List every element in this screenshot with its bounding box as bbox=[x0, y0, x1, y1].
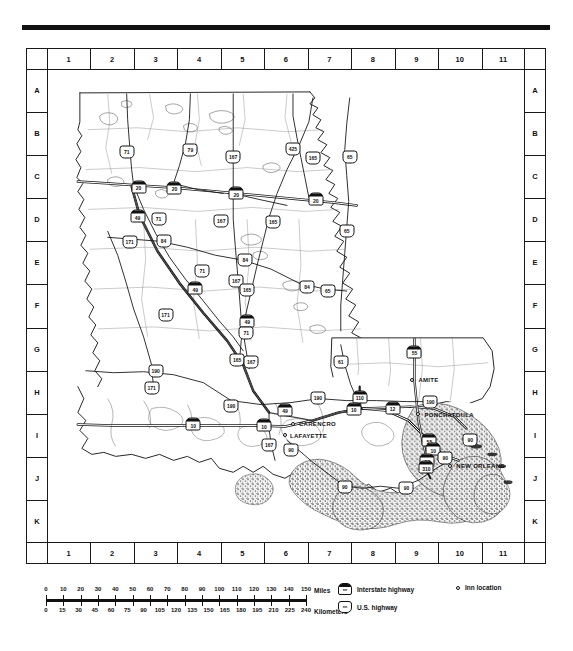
us-highway-shield-65[interactable]: 65 bbox=[342, 150, 357, 163]
scale-bar: 0102030405060708090100110120130140150 01… bbox=[46, 586, 306, 616]
city-label-carencro: CARENCRO bbox=[299, 421, 336, 427]
us-highway-shield-71[interactable]: 71 bbox=[239, 326, 254, 339]
scale-tick bbox=[185, 595, 186, 606]
us-highway-shield-90[interactable]: 90 bbox=[337, 481, 352, 494]
us-highway-shield-190[interactable]: 190 bbox=[310, 391, 325, 404]
interstate-shield-310[interactable]: 310 bbox=[419, 461, 434, 474]
grid-row-E: E bbox=[27, 241, 47, 284]
grid-row-label: G bbox=[532, 345, 538, 354]
us-highway-shield-165[interactable]: 165 bbox=[266, 216, 281, 229]
grid-rows-right: ABCDEFGHIJK bbox=[525, 69, 545, 543]
grid-row-label: H bbox=[34, 388, 39, 397]
us-highway-shield-65[interactable]: 65 bbox=[339, 225, 354, 238]
us-highway-shield-90[interactable]: 90 bbox=[438, 452, 453, 465]
grid-column-11: 11 bbox=[482, 49, 525, 69]
us-highway-shield-84[interactable]: 84 bbox=[299, 281, 314, 294]
interstate-shield-20[interactable]: 20 bbox=[131, 180, 146, 193]
grid-row-J: J bbox=[27, 457, 47, 500]
us-highway-shield-79[interactable]: 79 bbox=[183, 143, 198, 156]
grid-column-label: 9 bbox=[414, 55, 418, 64]
inn-location-marker[interactable] bbox=[410, 378, 414, 382]
scale-tick bbox=[98, 595, 99, 606]
us-highway-shield-171[interactable]: 171 bbox=[122, 236, 137, 249]
scale-tick bbox=[254, 595, 255, 606]
us-highway-shield-165[interactable]: 165 bbox=[240, 284, 255, 297]
us-highway-shield-84[interactable]: 84 bbox=[156, 235, 171, 248]
interstate-shield-12[interactable]: 12 bbox=[385, 401, 400, 414]
scale-km-tick-label: 165 bbox=[220, 607, 230, 613]
grid-row-K: K bbox=[27, 500, 47, 543]
city-label-new-orleans: NEW ORLEANS bbox=[456, 463, 504, 469]
interstate-shield-10[interactable]: 10 bbox=[346, 402, 361, 415]
scale-km-tick-label: 30 bbox=[75, 607, 82, 613]
us-highway-shield-90[interactable]: 90 bbox=[283, 444, 298, 457]
grid-column-2: 2 bbox=[90, 49, 133, 69]
scale-mile-tick-label: 40 bbox=[112, 586, 119, 592]
grid-row-label: F bbox=[533, 301, 538, 310]
us-highway-shield-425[interactable]: 425 bbox=[285, 142, 300, 155]
grid-row-label: C bbox=[34, 172, 39, 181]
grid-column-4: 4 bbox=[177, 543, 220, 563]
scale-km-tick-label: 75 bbox=[124, 607, 131, 613]
inn-location-marker[interactable] bbox=[283, 433, 287, 437]
shield-number: 10 bbox=[191, 423, 197, 428]
us-highway-shield-71[interactable]: 71 bbox=[119, 145, 134, 158]
interstate-shield-49[interactable]: 49 bbox=[278, 403, 293, 416]
us-highway-shield-71[interactable]: 71 bbox=[195, 265, 210, 278]
inn-location-marker[interactable] bbox=[448, 464, 452, 468]
grid-column-label: 6 bbox=[284, 55, 288, 64]
us-highway-shield-90[interactable]: 90 bbox=[463, 434, 478, 447]
us-highway-shield-167[interactable]: 167 bbox=[226, 150, 241, 163]
interstate-shield-10[interactable]: 10 bbox=[186, 418, 201, 431]
us-highway-shield-167[interactable]: 167 bbox=[262, 439, 277, 452]
interstate-shield-20[interactable]: 20 bbox=[229, 187, 244, 200]
city-label-ponchatoula: PONCHATOULA bbox=[424, 412, 473, 418]
grid-column-label: 10 bbox=[455, 55, 464, 64]
interstate-shield-10[interactable]: 10 bbox=[257, 419, 272, 432]
grid-row-I: I bbox=[27, 414, 47, 457]
interstate-shield-20[interactable]: 20 bbox=[167, 181, 182, 194]
scale-km-tick-label: 240 bbox=[301, 607, 311, 613]
scale-tick bbox=[63, 595, 64, 606]
scale-mile-tick-label: 0 bbox=[44, 586, 47, 592]
scale-tick bbox=[133, 595, 134, 606]
legend-item-us-highway: nn U.S. highway bbox=[338, 601, 397, 613]
scale-km-tick-label: 15 bbox=[59, 607, 66, 613]
us-highway-shield-167[interactable]: 167 bbox=[214, 215, 229, 228]
us-highway-shield-190[interactable]: 190 bbox=[148, 364, 163, 377]
scale-mile-tick-label: 120 bbox=[249, 586, 259, 592]
map-canvas[interactable]: 7179167425165652020202049711718416716565… bbox=[48, 70, 524, 542]
grid-column-10: 10 bbox=[438, 49, 481, 69]
grid-row-B: B bbox=[27, 112, 47, 155]
interstate-shield-49[interactable]: 49 bbox=[188, 282, 203, 295]
us-highway-shield-171[interactable]: 171 bbox=[144, 381, 159, 394]
us-highway-shield-167[interactable]: 167 bbox=[244, 355, 259, 368]
grid-row-label: J bbox=[533, 474, 537, 483]
us-highway-shield-65[interactable]: 65 bbox=[320, 285, 335, 298]
us-highway-shield-84[interactable]: 84 bbox=[238, 254, 253, 267]
us-highway-shield-171[interactable]: 171 bbox=[158, 308, 173, 321]
grid-column-label: 9 bbox=[414, 549, 418, 558]
interstate-shield-49[interactable]: 49 bbox=[130, 210, 145, 223]
shield-number: 12 bbox=[390, 407, 396, 412]
scale-km-tick-label: 195 bbox=[252, 607, 262, 613]
us-highway-shield-190[interactable]: 190 bbox=[224, 399, 239, 412]
interstate-shield-20[interactable]: 20 bbox=[308, 193, 323, 206]
interstate-highway-icon: nn bbox=[338, 583, 352, 595]
inn-dot bbox=[410, 378, 414, 382]
grid-column-2: 2 bbox=[90, 543, 133, 563]
grid-column-9: 9 bbox=[395, 543, 438, 563]
scale-km-tick-label: 45 bbox=[91, 607, 98, 613]
us-highway-shield-90[interactable]: 90 bbox=[399, 482, 414, 495]
us-highway-icon: nn bbox=[338, 601, 352, 613]
us-highway-shield-71[interactable]: 71 bbox=[151, 213, 166, 226]
us-highway-shield-190[interactable]: 190 bbox=[423, 395, 438, 408]
grid-row-label: H bbox=[532, 388, 537, 397]
us-highway-shield-61[interactable]: 61 bbox=[333, 355, 348, 368]
us-highway-shield-165[interactable]: 165 bbox=[305, 151, 320, 164]
inn-location-marker[interactable] bbox=[291, 422, 295, 426]
inn-location-marker[interactable] bbox=[416, 412, 420, 416]
scale-tick bbox=[167, 595, 168, 606]
interstate-shield-55[interactable]: 55 bbox=[407, 345, 422, 358]
us-highway-shield-165[interactable]: 165 bbox=[230, 353, 245, 366]
